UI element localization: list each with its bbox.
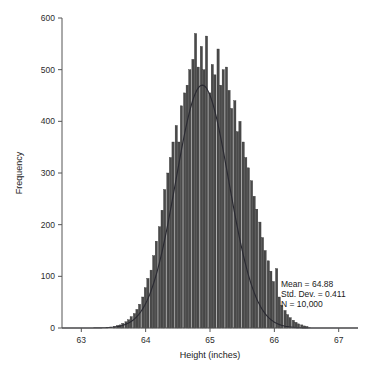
histogram-bar	[136, 309, 138, 328]
y-tick-label: 400	[41, 116, 55, 126]
histogram-bar	[161, 210, 163, 328]
histogram-bar	[205, 36, 207, 328]
histogram-bar	[228, 90, 230, 328]
histogram-bar	[197, 67, 199, 328]
annotation-mean: Mean = 64.88	[281, 279, 333, 289]
histogram-bar	[200, 46, 202, 328]
histogram-bar	[250, 181, 252, 328]
histogram-bar	[222, 70, 224, 328]
y-tick-label: 100	[41, 271, 55, 281]
histogram-bar	[147, 278, 149, 328]
y-tick-label: 600	[41, 13, 55, 23]
histogram-bar	[153, 256, 155, 328]
histogram-bar	[209, 93, 211, 328]
histogram-bar	[138, 304, 140, 328]
histogram-bar	[133, 314, 135, 328]
histogram-bar	[220, 85, 222, 328]
annotation-n: N = 10,000	[281, 299, 323, 309]
histogram-bar	[155, 241, 157, 328]
histogram-bar	[239, 121, 241, 328]
x-tick-label: 63	[77, 335, 87, 345]
histogram-bar	[247, 168, 249, 328]
histogram-bar	[169, 158, 171, 329]
histogram-bar	[245, 158, 247, 329]
histogram-bar	[180, 106, 182, 328]
histogram-bars	[113, 34, 308, 329]
y-tick-label: 500	[41, 65, 55, 75]
histogram-bar	[194, 34, 196, 329]
histogram-bar	[158, 227, 160, 328]
histogram-bar	[175, 125, 177, 328]
histogram-bar	[259, 222, 261, 328]
chart-canvas: 01002003004005006006364656667 Height (in…	[0, 0, 379, 376]
y-tick-label: 0	[50, 323, 55, 333]
histogram-bar	[225, 67, 227, 328]
histogram-figure: 01002003004005006006364656667 Height (in…	[0, 0, 379, 376]
histogram-bar	[264, 251, 266, 329]
annotation-std: Std. Dev. = 0.411	[281, 289, 346, 299]
histogram-bar	[203, 70, 205, 328]
histogram-bar	[261, 238, 263, 328]
histogram-bar	[150, 270, 152, 328]
histogram-bar	[276, 269, 278, 328]
histogram-bar	[278, 297, 280, 328]
histogram-bar	[253, 196, 255, 328]
x-tick-label: 64	[141, 335, 151, 345]
x-tick-label: 65	[205, 335, 215, 345]
x-axis-title: Height (inches)	[180, 350, 241, 360]
histogram-bar	[217, 49, 219, 328]
histogram-bar	[230, 108, 232, 328]
histogram-bar	[144, 288, 146, 328]
y-axis-title: Frequency	[14, 151, 24, 194]
y-tick-label: 300	[41, 168, 55, 178]
y-tick-label: 200	[41, 220, 55, 230]
histogram-bar	[167, 173, 169, 328]
histogram-bar	[242, 142, 244, 328]
histogram-bar	[284, 310, 286, 328]
histogram-bar	[142, 297, 144, 328]
histogram-bar	[164, 190, 166, 328]
x-tick-label: 66	[270, 335, 280, 345]
histogram-bar	[256, 209, 258, 328]
histogram-bar	[172, 142, 174, 328]
x-tick-label: 67	[334, 335, 344, 345]
